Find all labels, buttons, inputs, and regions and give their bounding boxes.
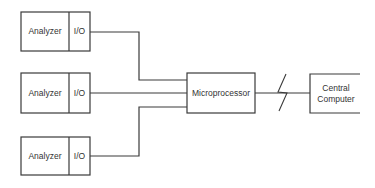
connector-1 — [90, 32, 187, 80]
central-line-2: Computer — [317, 94, 354, 105]
analyzer-label-2: Analyzer — [21, 73, 69, 113]
lightning-bolt-icon — [278, 74, 287, 111]
central-line-1: Central — [322, 83, 349, 94]
analyzer-label-1: Analyzer — [21, 12, 69, 51]
microprocessor-label: Microprocessor — [187, 73, 255, 113]
io-label-1: I/O — [69, 12, 90, 51]
central-computer-label: Central Computer — [310, 74, 362, 113]
io-label-2: I/O — [69, 73, 90, 113]
connector-3 — [90, 107, 187, 156]
io-label-3: I/O — [69, 137, 90, 175]
analyzer-label-3: Analyzer — [21, 137, 69, 175]
